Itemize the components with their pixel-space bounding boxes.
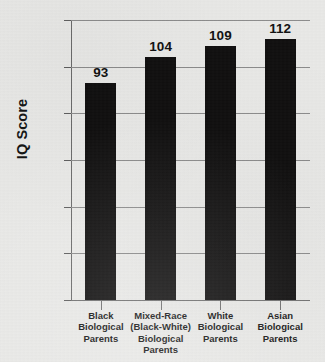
y-tick-mark xyxy=(64,207,71,208)
plot-area: 020406080100120 93104109112 xyxy=(71,20,310,300)
x-tick-mark xyxy=(220,301,221,310)
bar-value-label: 112 xyxy=(250,21,310,36)
x-tick-mark xyxy=(280,301,281,310)
y-tick-mark xyxy=(64,113,71,114)
y-axis-title: IQ Score xyxy=(14,74,30,184)
y-tick-mark xyxy=(64,160,71,161)
bar xyxy=(265,39,296,300)
x-tick-mark xyxy=(161,301,162,310)
bar xyxy=(205,46,236,300)
bar xyxy=(145,57,176,300)
bar-value-label: 109 xyxy=(190,28,250,43)
y-tick-mark xyxy=(64,20,71,21)
bar-value-label: 104 xyxy=(131,39,191,54)
axis-baseline xyxy=(71,300,310,301)
y-tick-mark xyxy=(64,300,71,301)
x-axis-category-label: AsianBiologicalParents xyxy=(241,310,319,344)
bar xyxy=(85,83,116,300)
y-tick-mark xyxy=(64,253,71,254)
bar-chart: IQ Score 020406080100120 93104109112 Bla… xyxy=(0,0,325,362)
bar-value-label: 93 xyxy=(71,65,131,80)
x-label-line: Biological xyxy=(241,321,319,332)
x-label-line: Parents xyxy=(241,333,319,344)
x-tick-mark xyxy=(101,301,102,310)
x-label-line: Asian xyxy=(241,310,319,321)
